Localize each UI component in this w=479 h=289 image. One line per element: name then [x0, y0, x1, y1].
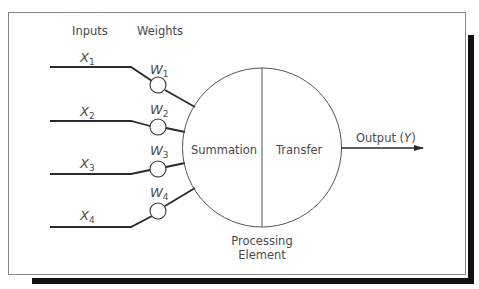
weights-header: Weights [137, 24, 183, 38]
output-label: Output (Y) [356, 131, 416, 145]
frame-shadow-bottom [32, 278, 474, 284]
frame-shadow-right [468, 35, 474, 284]
weight-node-1 [150, 77, 166, 93]
inputs-header: Inputs [72, 24, 108, 38]
weight-node-4 [150, 203, 166, 219]
processing-element-caption-1: Processing [231, 234, 292, 248]
summation-label: Summation [191, 143, 257, 157]
transfer-label: Transfer [275, 143, 323, 157]
weight-node-3 [150, 161, 166, 177]
processing-element-caption-2: Element [238, 248, 286, 262]
neural-processing-element-diagram: Inputs Weights X1 W1 X2 W2 X3 W3 X4 W4 S… [0, 0, 479, 289]
weight-node-2 [150, 119, 166, 135]
